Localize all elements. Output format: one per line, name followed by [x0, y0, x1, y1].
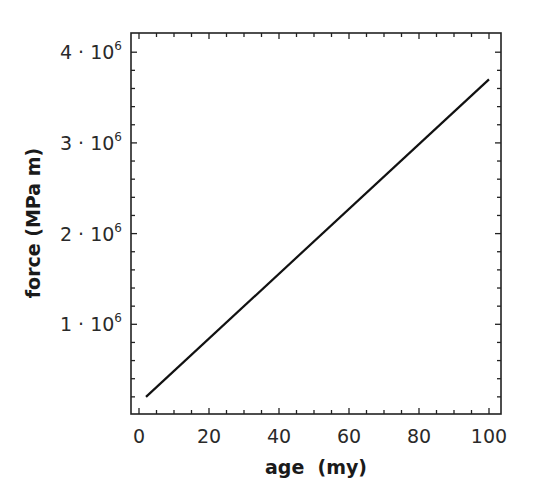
y-tick-label: 4 · 106: [60, 39, 122, 63]
x-axis-label: age (my): [265, 456, 367, 478]
x-tick-label: 100: [471, 425, 507, 447]
x-tick-label: 60: [337, 425, 361, 447]
tick-marks: [131, 33, 501, 414]
x-tick-label: 20: [197, 425, 221, 447]
line-chart: 020406080100 1 · 1062 · 1063 · 1064 · 10…: [0, 0, 537, 491]
y-axis-label: force (MPa m): [22, 148, 44, 298]
x-tick-label: 40: [267, 425, 291, 447]
x-tick-label: 80: [407, 425, 431, 447]
y-tick-label: 1 · 106: [60, 311, 122, 335]
y-tick-labels: 1 · 1062 · 1063 · 1064 · 106: [60, 39, 122, 335]
x-tick-labels: 020406080100: [133, 425, 507, 447]
y-tick-label: 3 · 106: [60, 130, 122, 154]
y-tick-label: 2 · 106: [60, 221, 122, 245]
data-line-force: [146, 79, 489, 396]
plot-frame: [131, 33, 501, 414]
x-tick-label: 0: [133, 425, 145, 447]
